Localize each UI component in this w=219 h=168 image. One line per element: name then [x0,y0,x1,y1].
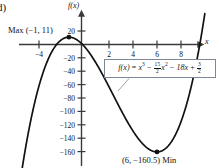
x-tick-label: 4 [127,50,139,59]
equation-term3: 18x [176,63,188,72]
y-tick-label: 20 [59,27,75,36]
x-tick-label: −4 [31,50,47,59]
y-tick-label: −140 [51,134,75,143]
equation-text: f(x)=x3−152x2−18x+32 [118,62,201,75]
y-tick-label: −100 [51,107,75,116]
y-tick-label: −160 [51,147,75,156]
minimum-annotation-label: (6, −160.5) Min [122,156,176,165]
equation-coefficient-fraction-15-over-2: 152 [154,62,161,75]
y-axis-label: f(x) [68,2,79,10]
x-axis-label: x [205,38,209,46]
part-letter-label: d) [0,2,6,13]
x-axis [19,41,198,49]
equation-equals: = [132,63,137,72]
fraction-denominator: 2 [154,69,161,75]
x-tick-label: 6 [151,50,163,59]
equation-term2-exponent: 2 [165,62,168,68]
function-graph-figure: d) f(x) x Max (−1, 11) (6, −160.5) Min 2… [0,0,219,168]
y-tick-label: −120 [51,120,75,129]
maximum-annotation-label: Max (−1, 11) [8,26,53,35]
equation-constant-fraction-3-over-2: 32 [197,62,201,75]
equation-operator-2: − [170,63,175,72]
fraction-denominator: 2 [197,69,201,75]
equation-lhs: f(x) [118,63,130,72]
equation-operator-1: − [147,63,152,72]
equation-term1-exponent: 3 [142,62,145,68]
y-tick-label: −40 [55,67,75,76]
y-axis [78,16,86,166]
x-tick-label: 2 [103,50,115,59]
y-tick-label: −80 [55,94,75,103]
x-tick-label: 8 [175,50,187,59]
y-tick-label: −60 [55,80,75,89]
equation-operator-3: + [190,63,195,72]
callout-leader-line [118,79,129,92]
min-point-marker [155,150,160,155]
equation-callout-box: f(x)=x3−152x2−18x+32 [104,59,216,78]
y-tick-label: −20 [55,53,75,62]
cubic-curve [18,14,205,168]
